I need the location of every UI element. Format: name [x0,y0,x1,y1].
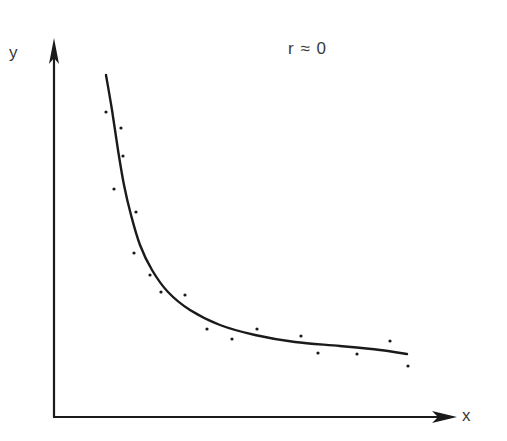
data-point [299,334,302,337]
data-points [104,110,409,367]
data-point [316,351,319,354]
data-point [230,337,233,340]
y-axis-label: y [9,44,18,61]
data-point [388,339,391,342]
data-point [205,327,208,330]
x-axis-label: x [462,407,471,424]
scatter-plot [0,0,507,441]
data-point [104,110,107,113]
data-point [119,126,122,129]
data-point [183,293,186,296]
correlation-annotation: r ≈ 0 [288,40,327,57]
data-point [355,352,358,355]
fitted-curve [106,75,407,354]
data-point [159,290,162,293]
data-point [112,187,115,190]
data-point [121,154,124,157]
data-point [148,273,151,276]
data-point [134,210,137,213]
data-point [255,327,258,330]
data-point [406,364,409,367]
data-point [132,251,135,254]
